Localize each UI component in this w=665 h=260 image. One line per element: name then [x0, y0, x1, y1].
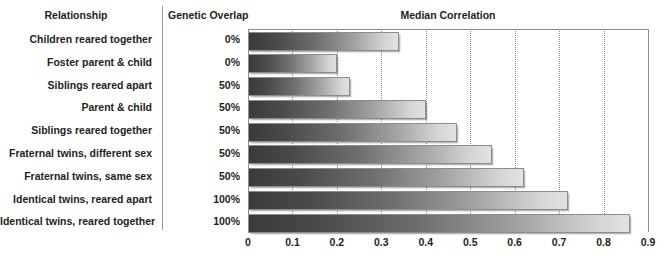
chart-row: Fraternal twins, same sex50%: [0, 167, 665, 190]
bar-wrapper: [248, 168, 524, 187]
x-tick-label: 0.5: [463, 236, 478, 248]
chart-row: Identical twins, reared apart100%: [0, 190, 665, 213]
relationship-label: Fraternal twins, same sex: [0, 170, 152, 182]
bar-wrapper: [248, 123, 457, 142]
chart-figure: Relationship Genetic Overlap Median Corr…: [0, 0, 665, 260]
relationship-label: Fraternal twins, different sex: [0, 147, 152, 159]
column-header-genetic-overlap: Genetic Overlap: [168, 9, 246, 21]
x-tick-label: 0.6: [507, 236, 522, 248]
chart-row: Children reared together0%: [0, 30, 665, 53]
relationship-label: Identical twins, reared apart: [0, 193, 152, 205]
bar-wrapper: [248, 77, 350, 96]
x-tick-label: 0: [245, 236, 251, 248]
chart-row: Fraternal twins, different sex50%: [0, 144, 665, 167]
genetic-overlap-value: 0%: [168, 33, 240, 45]
bar-wrapper: [248, 54, 337, 73]
x-axis: 00.10.20.30.40.50.60.70.80.9: [0, 233, 665, 255]
genetic-overlap-value: 50%: [168, 147, 240, 159]
chart-row: Parent & child50%: [0, 98, 665, 121]
relationship-label: Foster parent & child: [0, 56, 152, 68]
x-tick-label: 0.9: [641, 236, 656, 248]
chart-rows: Children reared together0%Foster parent …: [0, 30, 665, 235]
x-tick-label: 0.2: [330, 236, 345, 248]
bar-median-correlation: [248, 214, 630, 233]
genetic-overlap-value: 50%: [168, 79, 240, 91]
x-tick-label: 0.8: [596, 236, 611, 248]
genetic-overlap-value: 50%: [168, 101, 240, 113]
relationship-label: Parent & child: [0, 101, 152, 113]
bar-wrapper: [248, 100, 426, 119]
relationship-label: Siblings reared apart: [0, 79, 152, 91]
bar-median-correlation: [248, 191, 568, 210]
bar-median-correlation: [248, 123, 457, 142]
genetic-overlap-value: 100%: [168, 193, 240, 205]
chart-row: Foster parent & child0%: [0, 53, 665, 76]
bar-wrapper: [248, 214, 630, 233]
genetic-overlap-value: 0%: [168, 56, 240, 68]
bar-median-correlation: [248, 32, 399, 51]
bar-median-correlation: [248, 145, 492, 164]
genetic-overlap-value: 100%: [168, 215, 240, 227]
chart-row: Siblings reared together50%: [0, 121, 665, 144]
x-tick-label: 0.4: [418, 236, 433, 248]
relationship-label: Siblings reared together: [0, 124, 152, 136]
relationship-label: Children reared together: [0, 33, 152, 45]
bar-median-correlation: [248, 54, 337, 73]
x-tick-label: 0.1: [285, 236, 300, 248]
bar-median-correlation: [248, 77, 350, 96]
genetic-overlap-value: 50%: [168, 124, 240, 136]
genetic-overlap-value: 50%: [168, 170, 240, 182]
chart-row: Siblings reared apart50%: [0, 76, 665, 99]
bar-median-correlation: [248, 100, 426, 119]
bar-wrapper: [248, 32, 399, 51]
bar-wrapper: [248, 191, 568, 210]
bar-median-correlation: [248, 168, 524, 187]
chart-row: Identical twins, reared together100%: [0, 212, 665, 235]
x-tick-label: 0.7: [552, 236, 567, 248]
chart-title-median-correlation: Median Correlation: [248, 9, 648, 21]
column-header-relationship: Relationship: [0, 9, 152, 21]
bar-wrapper: [248, 145, 492, 164]
relationship-label: Identical twins, reared together: [0, 215, 152, 227]
x-tick-label: 0.3: [374, 236, 389, 248]
